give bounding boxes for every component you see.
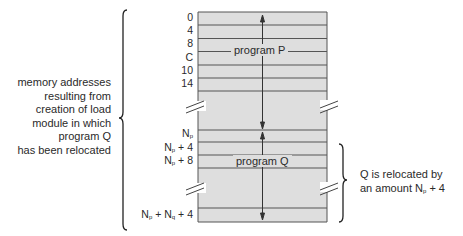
left-brace-icon	[119, 10, 127, 230]
address-label-p: C	[185, 51, 193, 63]
program-q-label: program Q	[233, 155, 292, 167]
annotation-line: memory addresses	[17, 76, 111, 90]
address-label-p: 8	[187, 37, 193, 49]
annotation-line: module in which	[17, 117, 111, 131]
left-annotation: memory addresses resulting from creation…	[17, 76, 111, 158]
address-label-p: 14	[181, 77, 193, 89]
right-brace-icon	[339, 144, 347, 222]
address-label-q: Np + Nq + 4	[141, 208, 193, 220]
address-label-q: Np + 8	[164, 154, 193, 166]
annotation-line: resulting from	[17, 90, 111, 104]
annotation-line: an amount Np + 4	[360, 182, 445, 199]
address-label-p: 0	[187, 11, 193, 23]
right-annotation: Q is relocated by an amount Np + 4	[360, 168, 445, 198]
annotation-line: has been relocated	[17, 144, 111, 158]
address-label-p: 4	[187, 24, 193, 36]
annotation-line: Q is relocated by	[360, 168, 445, 182]
annotation-line: creation of load	[17, 103, 111, 117]
address-label-q: Np + 4	[164, 141, 193, 153]
annotation-line: program Q	[17, 130, 111, 144]
address-label-p: 10	[181, 64, 193, 76]
program-p-label: program P	[231, 44, 288, 56]
address-label-q: Np	[182, 127, 193, 139]
